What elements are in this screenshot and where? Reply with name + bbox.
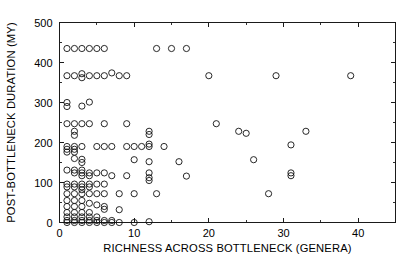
- data-point: [94, 73, 100, 79]
- data-point: [131, 157, 137, 163]
- data-point: [79, 191, 85, 197]
- data-point: [94, 170, 100, 176]
- data-point: [101, 73, 107, 79]
- plot-frame: [60, 23, 396, 223]
- data-point: [243, 130, 249, 136]
- x-tick-label-0: 0: [56, 227, 62, 239]
- data-point: [124, 173, 130, 179]
- x-tick-label-40: 40: [352, 227, 364, 239]
- y-axis-title: POST-BOTTLENECK DURATION (MY): [5, 22, 17, 223]
- data-point: [303, 128, 309, 134]
- data-point: [109, 70, 115, 76]
- data-point: [94, 181, 100, 187]
- data-point: [71, 73, 77, 79]
- data-point: [79, 197, 85, 203]
- data-point: [64, 197, 70, 203]
- data-point: [109, 143, 115, 149]
- data-point: [94, 191, 100, 197]
- data-point: [139, 143, 145, 149]
- data-point: [64, 103, 70, 109]
- data-point: [94, 202, 100, 208]
- data-point: [79, 45, 85, 51]
- y-tick-label-0: 0: [46, 217, 52, 229]
- data-point: [79, 121, 85, 127]
- data-point: [124, 121, 130, 127]
- data-point: [64, 121, 70, 127]
- data-point: [64, 191, 70, 197]
- data-point: [86, 200, 92, 206]
- data-point: [183, 173, 189, 179]
- data-point: [79, 75, 85, 81]
- data-point: [101, 181, 107, 187]
- data-point: [161, 143, 167, 149]
- data-point: [101, 143, 107, 149]
- data-point: [288, 142, 294, 148]
- data-point: [116, 73, 122, 79]
- data-point: [71, 203, 77, 209]
- y-tick-label-200: 200: [34, 137, 52, 149]
- data-point: [64, 167, 70, 173]
- chart-canvas: 0102030400100200300400500RICHNESS ACROSS…: [0, 0, 414, 267]
- x-tick-label-10: 10: [128, 227, 140, 239]
- data-point: [71, 45, 77, 51]
- data-point: [86, 191, 92, 197]
- data-point: [71, 155, 77, 161]
- data-point: [79, 203, 85, 209]
- data-point: [116, 207, 122, 213]
- y-tick-label-400: 400: [34, 57, 52, 69]
- data-point: [64, 203, 70, 209]
- data-point: [101, 191, 107, 197]
- data-point: [71, 132, 77, 138]
- x-tick-label-20: 20: [203, 227, 215, 239]
- data-point: [86, 45, 92, 51]
- data-point: [153, 191, 159, 197]
- data-point: [101, 121, 107, 127]
- data-point: [213, 121, 219, 127]
- data-point: [71, 191, 77, 197]
- data-point: [86, 121, 92, 127]
- data-point: [251, 157, 257, 163]
- data-point: [131, 191, 137, 197]
- y-tick-label-300: 300: [34, 97, 52, 109]
- x-axis-title: RICHNESS ACROSS BOTTLENECK (GENERA): [103, 242, 351, 254]
- data-point: [86, 99, 92, 105]
- data-point: [86, 73, 92, 79]
- data-point: [109, 173, 115, 179]
- data-point: [124, 143, 130, 149]
- data-point: [64, 45, 70, 51]
- data-point: [183, 45, 189, 51]
- data-point: [64, 73, 70, 79]
- scatter-plot-figure: 0102030400100200300400500RICHNESS ACROSS…: [0, 0, 414, 267]
- data-point: [79, 143, 85, 149]
- data-point: [79, 103, 85, 109]
- data-point: [101, 45, 107, 51]
- data-point: [116, 191, 122, 197]
- data-point: [71, 121, 77, 127]
- y-tick-label-100: 100: [34, 177, 52, 189]
- data-point: [124, 73, 130, 79]
- data-point: [348, 73, 354, 79]
- data-point: [176, 159, 182, 165]
- data-point: [168, 45, 174, 51]
- data-point: [94, 45, 100, 51]
- data-point: [206, 73, 212, 79]
- data-point: [265, 191, 271, 197]
- data-point-group: [64, 45, 354, 225]
- data-point: [236, 128, 242, 134]
- data-point: [94, 143, 100, 149]
- data-point: [131, 143, 137, 149]
- data-point: [101, 170, 107, 176]
- data-point: [153, 45, 159, 51]
- x-tick-label-30: 30: [277, 227, 289, 239]
- data-point: [71, 197, 77, 203]
- data-point: [273, 73, 279, 79]
- data-point: [146, 159, 152, 165]
- data-point: [146, 219, 152, 225]
- y-tick-label-500: 500: [34, 17, 52, 29]
